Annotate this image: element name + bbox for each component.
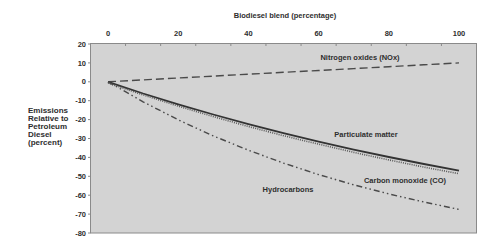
y-tick-label: 0 (82, 77, 86, 86)
y-tick-label: -60 (75, 191, 86, 200)
y-tick-label: 20 (78, 40, 86, 49)
x-tick-label: 0 (106, 29, 110, 38)
x-tick-label: 100 (453, 29, 466, 38)
series-label: Hydrocarbons (263, 185, 314, 194)
series-label: Carbon monoxide (CO) (364, 176, 447, 185)
x-tick-label: 60 (314, 29, 322, 38)
y-axis-title-line: (percent) (28, 139, 88, 147)
series-label: Particulate matter (334, 130, 397, 139)
y-tick-label: -40 (75, 153, 86, 162)
x-axis-title: Biodiesel blend (percentage) (234, 11, 337, 20)
x-tick-label: 20 (174, 29, 182, 38)
y-tick-label: 10 (78, 59, 86, 68)
y-tick-label: -80 (75, 229, 86, 238)
y-tick-label: -70 (75, 210, 86, 219)
series-label: Nitrogen oxides (NOx) (320, 53, 400, 62)
y-tick-label: -10 (75, 96, 86, 105)
x-tick-label: 80 (385, 29, 393, 38)
x-tick-label: 40 (244, 29, 252, 38)
y-axis-title: Emissions Relative to Petroleum Diesel (… (28, 107, 88, 147)
y-tick-label: -50 (75, 172, 86, 181)
